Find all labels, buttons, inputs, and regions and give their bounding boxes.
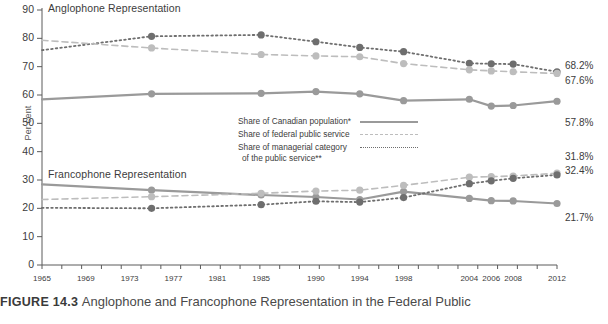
data-point — [258, 201, 265, 208]
data-point — [400, 97, 407, 104]
series-end-label: 21.7% — [565, 212, 593, 223]
data-point — [488, 67, 495, 74]
data-point — [488, 197, 495, 204]
data-point — [466, 195, 473, 202]
data-point — [258, 31, 265, 38]
legend-label-line2: of the public service** — [238, 153, 356, 164]
data-point — [466, 96, 473, 103]
y-tick-label: 80 — [8, 31, 34, 43]
data-point — [510, 197, 517, 204]
x-tick-label: 1990 — [296, 274, 336, 283]
data-point — [356, 199, 363, 206]
section-label-anglophone: Anglophone Representation — [48, 2, 181, 14]
legend-label: Share of Canadian population* — [238, 116, 351, 126]
y-tick-label: 30 — [8, 173, 34, 185]
series-line — [42, 184, 557, 203]
data-point — [258, 51, 265, 58]
legend-key-dashed — [360, 129, 422, 140]
legend-item-canadian-population: Share of Canadian population* — [238, 116, 422, 129]
legend-key-solid — [360, 116, 422, 127]
y-tick-label: 0 — [8, 258, 34, 270]
series-line — [42, 40, 557, 73]
y-tick-label: 20 — [8, 201, 34, 213]
x-tick-label: 1985 — [241, 274, 281, 283]
x-tick-label: 2008 — [493, 274, 533, 283]
data-point — [356, 187, 363, 194]
data-point — [400, 194, 407, 201]
y-tick-label: 70 — [8, 60, 34, 72]
data-point — [148, 187, 155, 194]
data-point — [488, 102, 495, 109]
series-line — [42, 92, 557, 107]
legend-label: Share of federal public service — [238, 129, 350, 139]
data-point — [510, 175, 517, 182]
data-point — [258, 90, 265, 97]
data-point — [148, 33, 155, 40]
data-point — [466, 60, 473, 67]
data-point — [312, 88, 319, 95]
series-line — [42, 35, 557, 72]
data-point — [312, 187, 319, 194]
data-point — [356, 44, 363, 51]
series-end-label: 57.8% — [565, 117, 593, 128]
data-point — [356, 53, 363, 60]
data-point — [466, 174, 473, 181]
series-end-label: 68.2% — [565, 60, 593, 71]
x-tick-label: 1998 — [384, 274, 424, 283]
data-point — [553, 70, 560, 77]
data-point — [553, 98, 560, 105]
data-point — [148, 90, 155, 97]
data-point — [466, 180, 473, 187]
x-tick-label: 1973 — [110, 274, 150, 283]
data-point — [356, 90, 363, 97]
figure-caption: FIGURE 14.3 Anglophone and Francophone R… — [0, 294, 608, 324]
x-tick-label: 1965 — [22, 274, 62, 283]
data-point — [400, 60, 407, 67]
section-label-francophone: Francophone Representation — [48, 168, 187, 180]
series-end-label: 67.6% — [565, 75, 593, 86]
data-point — [312, 38, 319, 45]
data-point — [312, 198, 319, 205]
x-tick-label: 1969 — [66, 274, 106, 283]
data-point — [312, 52, 319, 59]
chart-legend: Share of Canadian population* Share of f… — [238, 116, 422, 155]
series-end-label: 32.4% — [565, 165, 593, 176]
figure-title: Anglophone and Francophone Representatio… — [82, 294, 471, 309]
y-tick-label: 90 — [8, 3, 34, 15]
y-tick-label: 60 — [8, 88, 34, 100]
legend-item-managerial-category: Share of managerial category of the publ… — [238, 142, 422, 155]
data-point — [488, 60, 495, 67]
data-point — [510, 61, 517, 68]
data-point — [148, 44, 155, 51]
legend-item-federal-public-service: Share of federal public service — [238, 129, 422, 142]
figure-container: Per cent Anglophone Representation Franc… — [0, 0, 608, 324]
data-point — [553, 200, 560, 207]
y-tick-label: 10 — [8, 230, 34, 242]
x-tick-label: 2012 — [537, 274, 577, 283]
figure-number: FIGURE 14.3 — [0, 295, 78, 309]
data-point — [400, 48, 407, 55]
series-end-label: 31.8% — [565, 151, 593, 162]
data-point — [510, 102, 517, 109]
y-tick-label: 50 — [8, 116, 34, 128]
data-point — [466, 66, 473, 73]
legend-label: Share of managerial category — [238, 142, 347, 152]
data-point — [553, 171, 560, 178]
data-point — [510, 68, 517, 75]
y-tick-label: 40 — [8, 145, 34, 157]
legend-key-dotted — [360, 142, 422, 153]
x-tick-label: 1977 — [153, 274, 193, 283]
data-point — [400, 182, 407, 189]
data-point — [148, 193, 155, 200]
x-tick-label: 1994 — [340, 274, 380, 283]
data-point — [488, 177, 495, 184]
data-point — [148, 205, 155, 212]
x-tick-label: 1981 — [197, 274, 237, 283]
data-point — [258, 190, 265, 197]
